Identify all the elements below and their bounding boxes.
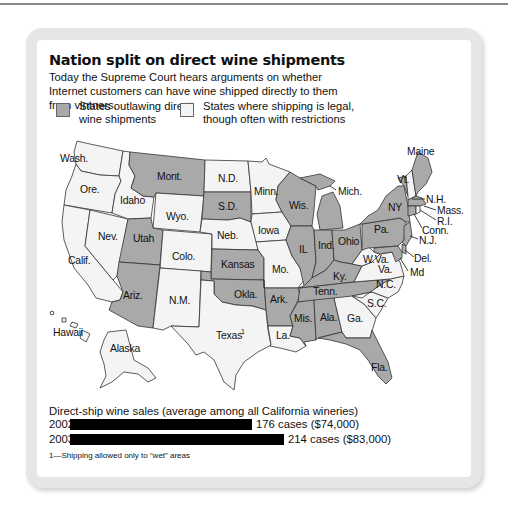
label-mo: Mo. — [272, 264, 289, 275]
bar-label-2003: 214 cases ($83,000) — [288, 433, 391, 445]
label-wyo: Wyo. — [166, 211, 189, 222]
sales-chart-title: Direct-ship wine sales (average among al… — [49, 405, 358, 417]
label-iowa: Iowa — [258, 225, 280, 236]
label-idaho: Idaho — [120, 195, 145, 206]
label-ny: NY — [388, 202, 402, 213]
state-mich-lp — [317, 192, 343, 230]
legend-swatch-legal — [180, 103, 194, 117]
legend-item-legal: States where shipping is legal, though o… — [180, 100, 360, 126]
label-md: Md — [410, 267, 424, 278]
state-fla — [318, 330, 392, 384]
label-alaska: Alaska — [110, 343, 140, 354]
label-ore: Ore. — [80, 184, 99, 195]
label-mis: Mis. — [294, 313, 312, 324]
state-alaska — [100, 330, 156, 388]
label-texas: Texas — [216, 330, 242, 341]
label-ariz: Ariz. — [123, 290, 143, 301]
label-nh: N.H. — [426, 194, 446, 205]
label-nd: N.D. — [218, 173, 238, 184]
label-utah: Utah — [133, 233, 155, 244]
label-il: IL — [299, 244, 308, 255]
bar-year-2003: 2003 — [49, 433, 70, 445]
bar-year-2002: 2002 — [49, 418, 70, 430]
sales-bar-row-2002: 2002 176 cases ($74,000) — [49, 418, 359, 430]
label-ark: Ark. — [270, 294, 288, 305]
state-ny — [360, 186, 410, 224]
us-map: Wash. Ore. Idaho Mont. N.D. S.D. Wyo. Ne… — [40, 130, 480, 400]
label-neb: Neb. — [217, 230, 238, 241]
state-hawaii-kauai — [50, 311, 54, 315]
legend-label-legal: States where shipping is legal, though o… — [203, 100, 360, 126]
label-wash: Wash. — [60, 153, 88, 164]
top-rule — [0, 3, 508, 5]
label-ohio: Ohio — [338, 236, 360, 247]
graphic-title: Nation split on direct wine shipments — [49, 52, 345, 68]
label-nev: Nev. — [98, 231, 118, 242]
label-fla: Fla. — [371, 362, 388, 373]
label-ala: Ala. — [320, 312, 337, 323]
label-sc: S.C. — [367, 298, 386, 309]
label-sd: S.D. — [218, 201, 237, 212]
label-nc: N.C. — [376, 279, 396, 290]
label-pa: Pa. — [374, 224, 389, 235]
bar-2003 — [70, 434, 284, 445]
label-nm: N.M. — [169, 295, 190, 306]
label-ky: Ky. — [333, 271, 347, 282]
footnote: 1—Shipping allowed only to “wet” areas — [49, 451, 190, 460]
state-ri — [416, 206, 420, 214]
label-colo: Colo. — [172, 251, 195, 262]
label-mont: Mont. — [157, 171, 182, 182]
label-maine: Maine — [407, 146, 435, 157]
label-la: La. — [276, 330, 290, 341]
label-minn: Minn. — [254, 186, 278, 197]
label-texas-note: 1 — [241, 328, 245, 335]
label-wva: W.Va. — [363, 254, 389, 265]
label-tenn: Tenn. — [313, 286, 337, 297]
state-hawaii-oahu — [62, 318, 66, 322]
label-va: Va. — [378, 264, 392, 275]
label-wis: Wis. — [289, 200, 308, 211]
label-hawaii: Hawaii — [53, 327, 83, 338]
label-del: Del. — [414, 253, 432, 264]
label-calif: Calif. — [68, 255, 90, 266]
legend-swatch-outlawing — [56, 103, 70, 117]
state-conn — [408, 206, 416, 216]
state-del — [402, 244, 406, 254]
label-kansas: Kansas — [221, 259, 254, 270]
bar-2002 — [70, 419, 252, 430]
label-ga: Ga. — [347, 313, 363, 324]
label-okla: Okla. — [234, 289, 257, 300]
sales-bar-row-2003: 2003 214 cases ($83,000) — [49, 433, 391, 445]
label-mich: Mich. — [338, 186, 362, 197]
state-maine — [412, 152, 432, 196]
label-vt: Vt. — [397, 174, 409, 185]
label-nj: N.J. — [419, 235, 437, 246]
label-ind: Ind. — [318, 240, 335, 251]
label-mass: Mass. — [437, 205, 464, 216]
bar-label-2002: 176 cases ($74,000) — [256, 418, 359, 430]
